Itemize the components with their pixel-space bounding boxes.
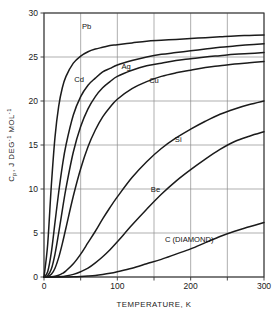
y-tick-label: 10 [29,184,39,194]
y-tick-label: 25 [29,52,39,62]
chart-canvas: PbCdAgCuSiBeC (DIAMOND) 0100200300 05101… [0,0,278,315]
y-axis-title: Cp, J DEG-1 MOL-1 [6,108,17,182]
y-tick-label: 20 [29,96,39,106]
curve-label-ag: Ag [121,62,130,71]
x-tick-labels: 0100200300 [42,281,272,291]
y-tick-label: 5 [33,228,38,238]
x-tick-label: 300 [257,281,271,291]
curve-label-si: Si [175,135,182,144]
gridlines [44,13,264,277]
x-tick-label: 200 [184,281,198,291]
y-tick-label: 15 [29,140,39,150]
curve-label-cu: Cu [149,76,159,85]
curve-labels: PbCdAgCuSiBeC (DIAMOND) [74,22,214,244]
curve-label-c-diamond: C (DIAMOND) [165,235,214,244]
x-axis-title: TEMPERATURE, K [117,300,192,309]
x-tick-label: 0 [42,281,47,291]
y-tick-label: 30 [29,8,39,18]
curve-label-cd: Cd [74,75,84,84]
heat-capacity-chart: PbCdAgCuSiBeC (DIAMOND) 0100200300 05101… [0,0,278,315]
curve-label-pb: Pb [82,22,91,31]
curve-label-be: Be [151,185,160,194]
y-tick-label: 0 [33,272,38,282]
y-tick-labels: 051015202530 [29,8,39,282]
x-tick-label: 100 [110,281,124,291]
